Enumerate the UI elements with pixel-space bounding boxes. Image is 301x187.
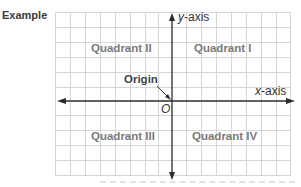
quadrant-ii-label: Quadrant II (91, 42, 152, 54)
origin-symbol: O (161, 102, 170, 116)
quadrant-i-label: Quadrant I (194, 42, 252, 54)
y-axis-label: y-axis (178, 10, 209, 24)
footer-divider (100, 181, 295, 183)
quadrant-iv-label: Quadrant IV (192, 130, 257, 142)
quadrant-iii-label: Quadrant III (91, 130, 155, 142)
y-axis-up-arrow (169, 13, 175, 21)
origin-label: Origin (124, 73, 158, 85)
x-axis-label: x-axis (255, 84, 286, 98)
x-axis-left-arrow (57, 98, 66, 104)
